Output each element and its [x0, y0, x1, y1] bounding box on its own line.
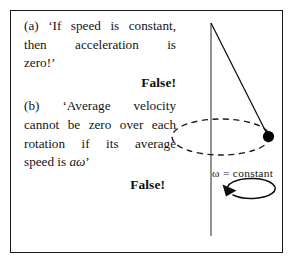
statement-b-line-2: cannot be zero over each — [24, 116, 176, 135]
statement-a-line-2: then acceleration is — [24, 36, 176, 55]
verdict-b: False! — [24, 176, 176, 195]
statement-b-symbol-a-omega: aω — [69, 154, 85, 169]
figure-screenshot: (a) ‘If speed is constant, then accelera… — [0, 0, 295, 262]
statement-a-line-1: (a) ‘If speed is constant, — [24, 17, 176, 36]
statement-a-line-3: zero!’ — [24, 54, 176, 73]
statement-text-column: (a) ‘If speed is constant, then accelera… — [24, 17, 176, 194]
statement-b-line-4-prefix: speed is — [24, 154, 69, 169]
omega-constant-label: ω = constant — [212, 167, 273, 179]
statement-b-line-1: (b) ‘Average velocity — [24, 97, 176, 116]
statement-a: (a) ‘If speed is constant, then accelera… — [24, 17, 176, 73]
statement-b-line-4-suffix: ’ — [85, 154, 89, 169]
statement-b: (b) ‘Average velocity cannot be zero ove… — [24, 97, 176, 171]
verdict-a: False! — [24, 74, 176, 93]
statement-b-line-3: rotation if its average — [24, 135, 176, 154]
statement-b-line-4: speed is aω’ — [24, 153, 176, 172]
